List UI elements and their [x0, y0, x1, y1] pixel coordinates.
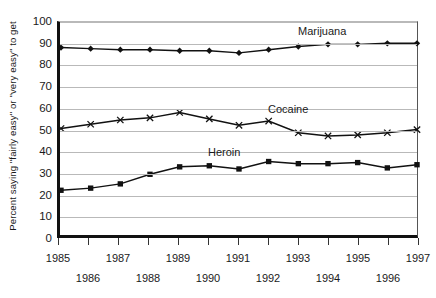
data-point-marijuana	[58, 44, 64, 50]
y-axis-title-text: Percent saying "fairly easy" or "very ea…	[7, 21, 18, 231]
x-axis-tick	[418, 238, 419, 245]
y-axis-tick-label: 70	[26, 80, 52, 92]
x-axis-tick	[388, 238, 389, 245]
x-axis-tick	[208, 238, 209, 245]
gridline	[60, 44, 417, 45]
gridline	[60, 109, 417, 110]
data-point-heroin	[414, 162, 419, 167]
x-axis-tick-label: 1987	[106, 252, 130, 264]
data-point-heroin	[355, 160, 360, 165]
gridline	[60, 87, 417, 88]
data-point-heroin	[207, 163, 212, 168]
y-axis-tick-label: 30	[26, 167, 52, 179]
y-axis-tick-label: 40	[26, 145, 52, 157]
data-point-marijuana	[206, 48, 212, 54]
x-axis-tick-label: 1995	[346, 252, 370, 264]
data-point-heroin	[266, 159, 271, 164]
y-axis-tick-label: 20	[26, 189, 52, 201]
x-axis-tick-label: 1989	[166, 252, 190, 264]
gridline	[60, 174, 417, 175]
x-axis-tick	[148, 238, 149, 245]
gridline	[60, 131, 417, 132]
x-axis-ticks	[57, 238, 418, 246]
data-point-heroin	[58, 188, 63, 193]
x-axis-tick	[178, 238, 179, 245]
line-chart: Percent saying "fairly easy" or "very ea…	[0, 0, 436, 298]
x-axis-tick-label: 1993	[286, 252, 310, 264]
x-axis-tick-label: 1991	[226, 252, 250, 264]
x-axis-tick-label: 1997	[406, 252, 430, 264]
data-point-heroin	[118, 181, 123, 186]
series-line-heroin	[61, 162, 417, 191]
data-point-marijuana	[147, 47, 153, 53]
x-axis-tick-label: 1988	[136, 272, 160, 284]
series-line-cocaine	[61, 113, 417, 136]
y-axis-tick-label: 10	[26, 210, 52, 222]
x-axis-tick	[358, 238, 359, 245]
x-axis-tick	[58, 238, 59, 245]
x-axis-tick-label: 1986	[76, 272, 100, 284]
x-axis-tick	[118, 238, 119, 245]
series-label-marijuana: Marijuana	[298, 25, 346, 37]
y-axis-tick-label: 90	[26, 37, 52, 49]
x-axis-tick-label: 1985	[46, 252, 70, 264]
x-axis-tick	[328, 238, 329, 245]
plot-area	[57, 21, 418, 238]
data-point-marijuana	[117, 47, 123, 53]
x-axis-tick	[88, 238, 89, 245]
x-axis-tick	[298, 238, 299, 245]
y-axis-tick-label: 50	[26, 124, 52, 136]
x-axis-tick-label: 1994	[316, 272, 340, 284]
x-axis-tick-label: 1996	[376, 272, 400, 284]
gridline	[60, 196, 417, 197]
x-axis-tick-label: 1990	[196, 272, 220, 284]
data-point-marijuana	[87, 45, 93, 51]
data-point-heroin	[88, 185, 93, 190]
x-axis-tick	[268, 238, 269, 245]
x-axis-tick-label: 1992	[256, 272, 280, 284]
data-point-heroin	[177, 164, 182, 169]
data-point-marijuana	[265, 47, 271, 53]
data-point-marijuana	[176, 48, 182, 54]
y-axis-title: Percent saying "fairly easy" or "very ea…	[0, 0, 24, 252]
gridline	[60, 217, 417, 218]
y-axis-tick-label: 100	[26, 15, 52, 27]
y-axis-tick-label: 60	[26, 102, 52, 114]
series-label-cocaine: Cocaine	[268, 103, 308, 115]
data-point-heroin	[325, 161, 330, 166]
series-label-heroin: Heroin	[208, 146, 240, 158]
y-axis-tick-label: 80	[26, 58, 52, 70]
data-point-heroin	[236, 166, 241, 171]
series-layer	[60, 22, 417, 235]
y-axis-tick-label: 0	[26, 232, 52, 244]
data-point-marijuana	[236, 50, 242, 56]
x-axis-tick-labels: 1985198619871988198919901991199219931994…	[0, 246, 436, 290]
gridline	[60, 65, 417, 66]
data-point-heroin	[296, 161, 301, 166]
x-axis-tick	[238, 238, 239, 245]
gridline	[60, 22, 417, 23]
data-point-heroin	[385, 165, 390, 170]
